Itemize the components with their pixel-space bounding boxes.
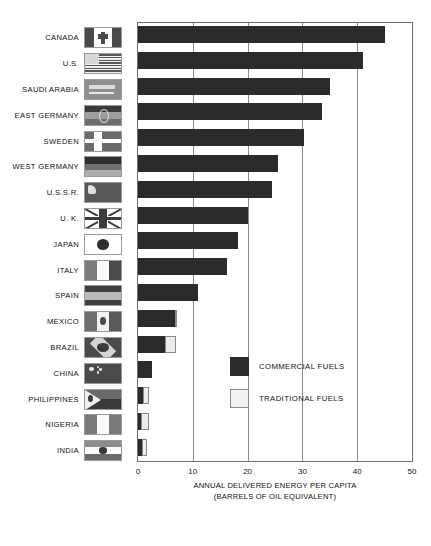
flag-brazil-icon xyxy=(84,337,122,358)
x-tick-label: 40 xyxy=(353,467,362,476)
flag-sweden-icon xyxy=(84,131,122,152)
x-axis-title-line2: (BARRELS OF OIL EQUIVALENT) xyxy=(137,492,413,503)
bar-segment-commercial xyxy=(138,232,238,249)
flag-east-germany-icon xyxy=(84,105,122,126)
bar-segment-commercial xyxy=(138,310,175,327)
flag-india-icon xyxy=(84,440,122,461)
bar-segment-traditional xyxy=(142,439,147,456)
bar-segment-commercial xyxy=(138,78,330,95)
flag-spain-icon xyxy=(84,285,122,306)
flag-italy-icon xyxy=(84,260,122,281)
bar-segment-traditional xyxy=(143,387,148,404)
x-axis-title-line1: ANNUAL DELIVERED ENERGY PER CAPITA xyxy=(137,481,413,492)
bar-segment-commercial xyxy=(138,26,385,43)
category-label: CANADA xyxy=(0,33,84,42)
bar-segment-commercial xyxy=(138,129,304,146)
x-tick-label: 30 xyxy=(298,467,307,476)
bar-segment-commercial xyxy=(138,361,152,378)
category-label: U.S.S.R. xyxy=(0,188,84,197)
flag-japan-icon xyxy=(84,234,122,255)
category-label: PHILIPPINES xyxy=(0,395,84,404)
category-label: CHINA xyxy=(0,369,84,378)
flag-united-kingdom-icon xyxy=(84,208,122,229)
bar-segment-commercial xyxy=(138,207,248,224)
category-label: ITALY xyxy=(0,266,84,275)
flag-canada-icon xyxy=(84,27,122,48)
bar-segment-commercial xyxy=(138,181,272,198)
legend-label: COMMERCIAL FUELS xyxy=(259,362,344,371)
flag-nigeria-icon xyxy=(84,414,122,435)
legend-item: COMMERCIAL FUELS xyxy=(230,357,344,376)
x-tick-label: 10 xyxy=(188,467,197,476)
category-label: SWEDEN xyxy=(0,137,84,146)
bar-segment-commercial xyxy=(138,258,227,275)
category-label: EAST GERMANY xyxy=(0,111,84,120)
chart-legend: COMMERCIAL FUELSTRADITIONAL FUELS xyxy=(230,357,344,421)
flag-ussr-icon xyxy=(84,182,122,203)
category-label: WEST GERMANY xyxy=(0,162,84,171)
category-label: JAPAN xyxy=(0,240,84,249)
bar-segment-commercial xyxy=(138,52,363,69)
legend-label: TRADITIONAL FUELS xyxy=(259,394,344,403)
category-label: MEXICO xyxy=(0,317,84,326)
energy-per-capita-bar-chart: CANADAU.S.SAUDI ARABIAEAST GERMANYSWEDEN… xyxy=(0,0,431,546)
category-label: SAUDI ARABIA xyxy=(0,85,84,94)
bar-segment-commercial xyxy=(138,103,322,120)
flag-philippines-icon xyxy=(84,389,122,410)
bar-segment-commercial xyxy=(138,284,198,301)
x-axis-title: ANNUAL DELIVERED ENERGY PER CAPITA (BARR… xyxy=(137,481,413,502)
x-tick-label: 20 xyxy=(243,467,252,476)
category-label: INDIA xyxy=(0,446,84,455)
flag-saudi-arabia-icon xyxy=(84,79,122,100)
legend-swatch-commercial xyxy=(230,357,249,376)
legend-swatch-traditional xyxy=(230,389,249,408)
bar-segment-commercial xyxy=(138,155,278,172)
flag-china-icon xyxy=(84,363,122,384)
bar-segment-traditional xyxy=(165,336,176,353)
category-label: BRAZIL xyxy=(0,343,84,352)
x-tick-label: 0 xyxy=(136,467,140,476)
bar-segment-traditional xyxy=(175,310,177,327)
bar-segment-traditional xyxy=(141,413,149,430)
legend-item: TRADITIONAL FUELS xyxy=(230,389,344,408)
category-label: U. K. xyxy=(0,214,84,223)
category-label: SPAIN xyxy=(0,291,84,300)
flag-united-states-icon xyxy=(84,53,122,74)
gridline xyxy=(357,23,358,461)
category-label: NIGERIA xyxy=(0,420,84,429)
flag-west-germany-icon xyxy=(84,156,122,177)
flag-mexico-icon xyxy=(84,311,122,332)
category-label: U.S. xyxy=(0,59,84,68)
x-tick-label: 50 xyxy=(408,467,417,476)
bar-segment-commercial xyxy=(138,336,165,353)
